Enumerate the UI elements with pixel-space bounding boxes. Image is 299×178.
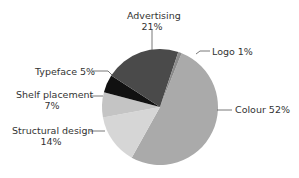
label-logo: Logo 1% <box>212 46 253 57</box>
label-structural-name: Structural design <box>12 125 90 136</box>
label-typeface: Typeface 5% <box>35 66 95 77</box>
label-advertising-pct: 21% <box>127 21 177 32</box>
label-shelf: Shelf placement 7% <box>16 89 88 111</box>
label-structural-pct: 14% <box>12 136 90 147</box>
label-advertising: Advertising 21% <box>127 10 177 32</box>
label-shelf-name: Shelf placement <box>16 89 88 100</box>
label-structural: Structural design 14% <box>12 125 90 147</box>
label-shelf-pct: 7% <box>16 100 88 111</box>
label-colour: Colour 52% <box>235 104 290 115</box>
label-advertising-name: Advertising <box>127 10 177 21</box>
leader-logo <box>196 51 210 54</box>
